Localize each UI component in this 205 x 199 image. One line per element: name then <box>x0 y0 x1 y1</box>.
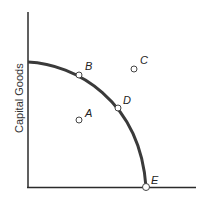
y-axis-label: Capital Goods <box>13 63 25 133</box>
point-d-label: D <box>123 94 131 106</box>
point-b-label: B <box>85 60 92 72</box>
ppf-diagram: Capital Goods A B C D E <box>0 0 205 199</box>
point-a-label: A <box>84 107 92 119</box>
point-c: C <box>131 54 148 72</box>
point-a: A <box>76 107 92 123</box>
point-b: B <box>76 60 92 78</box>
point-e-label: E <box>151 174 159 186</box>
point-e-marker <box>143 184 150 191</box>
point-c-label: C <box>140 54 148 66</box>
point-d: D <box>115 94 131 111</box>
point-c-marker <box>131 66 137 72</box>
production-possibilities-curve <box>28 62 146 187</box>
point-b-marker <box>76 72 82 78</box>
point-d-marker <box>115 105 121 111</box>
point-a-marker <box>76 117 82 123</box>
